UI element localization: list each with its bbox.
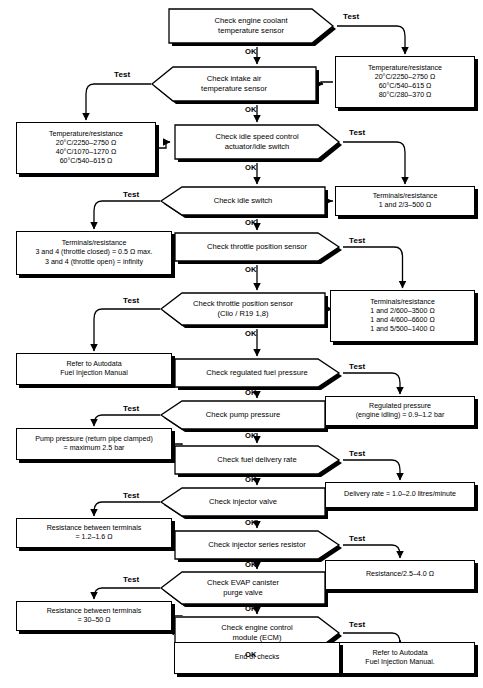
box-b-tps1: Terminals/resistance 1 and 2/600–3500 Ω …	[330, 290, 475, 342]
step-label: Check throttle position sensor	[174, 242, 340, 252]
box-b-tps2: Refer to Autodata Fuel Injection Manual	[16, 353, 172, 385]
connector	[94, 588, 160, 599]
box-b-evap: Resistance between terminals = 30–50 Ω	[16, 601, 172, 631]
edge-label-ok: OK	[245, 47, 256, 56]
edge-label-test-pump: Test	[123, 404, 139, 413]
step-injres[interactable]: Check injector series resistor	[174, 530, 340, 560]
edge-label-ok: OK	[245, 329, 256, 338]
edge-label-test-regfuel: Test	[349, 362, 365, 371]
step-injvalve[interactable]: Check injector valve	[160, 487, 326, 517]
edge-label-ok: OK	[245, 560, 256, 569]
connector	[94, 201, 160, 229]
box-b-pump: Pump pressure (return pipe clamped) = ma…	[16, 428, 172, 460]
box-label: Terminals/resistance 1 and 2/600–3500 Ω …	[331, 298, 474, 334]
connector	[337, 26, 405, 54]
connector	[94, 309, 160, 351]
step-label: Check regulated fuel pressure	[174, 368, 340, 378]
box-b-ecm: Refer to Autodata Fuel Injection Manual.	[325, 642, 475, 674]
edge-label-test-tps2: Test	[123, 296, 139, 305]
edge-label-ok: OK	[245, 105, 256, 114]
edge-label-test-injvalve: Test	[123, 491, 139, 500]
step-tps2[interactable]: Check throttle position sensor (Clio / R…	[160, 292, 326, 326]
connector	[86, 84, 151, 120]
box-label: End of checks	[175, 653, 339, 662]
step-label: Check pump pressure	[160, 410, 326, 420]
connector	[343, 142, 405, 184]
edge-label-test-intake: Test	[114, 70, 130, 79]
connector	[159, 142, 170, 148]
edge-label-test-coolant: Test	[343, 12, 359, 21]
step-label: Check throttle position sensor (Clio / R…	[160, 299, 326, 318]
edge-label-ok: OK	[245, 265, 256, 274]
edge-label-ok: OK	[245, 518, 256, 527]
box-b-idlespd: Terminals/resistance 1 and 2/3–500 Ω	[335, 186, 475, 216]
box-label: Resistance between terminals = 30–50 Ω	[17, 607, 171, 625]
step-label: Check injector series resistor	[174, 540, 340, 550]
step-label: Check idle switch	[160, 196, 326, 206]
step-label: Check injector valve	[160, 497, 326, 507]
box-b-delivery: Delivery rate = 1.0–2.0 litres/minute	[325, 482, 475, 508]
step-idlespeed[interactable]: Check idle speed control actuator/idle s…	[174, 124, 340, 160]
connector	[321, 82, 333, 84]
step-idleswitch[interactable]: Check idle switch	[160, 186, 326, 216]
step-label: Check idle speed control actuator/idle s…	[174, 132, 340, 151]
step-label: Check intake air temperature sensor	[151, 74, 317, 93]
edge-label-test-tps1: Test	[349, 236, 365, 245]
box-b-end: End of checks	[174, 642, 340, 674]
edge-label-test-injres: Test	[349, 534, 365, 543]
step-regfuel[interactable]: Check regulated fuel pressure	[174, 358, 340, 388]
box-label: Refer to Autodata Fuel Injection Manual	[17, 360, 171, 378]
box-label: Pump pressure (return pipe clamped) = ma…	[17, 435, 171, 453]
box-b-coolant: Temperature/resistance 20°C/2250–2750 Ω …	[335, 56, 475, 108]
box-label: Delivery rate = 1.0–2.0 litres/minute	[326, 490, 474, 499]
edge-label-test-idlespeed: Test	[349, 128, 365, 137]
step-tps1[interactable]: Check throttle position sensor	[174, 232, 340, 262]
box-label: Resistance between terminals = 1.2–1.6 Ω	[17, 524, 171, 542]
box-b-injres: Resistance/2.5–4.0 Ω	[325, 560, 475, 590]
step-delivery[interactable]: Check fuel delivery rate	[174, 445, 340, 475]
edge-label-ok: OK	[245, 604, 256, 613]
box-label: Temperature/resistance 20°C/2250–2750 Ω …	[336, 64, 474, 100]
box-b-regfuel: Regulated pressure (engine idling) = 0.9…	[325, 396, 475, 426]
box-label: Regulated pressure (engine idling) = 0.9…	[326, 402, 474, 420]
connector	[343, 460, 400, 480]
step-label: Check engine control module (ECM)	[174, 623, 340, 642]
edge-label-ok: OK	[245, 218, 256, 227]
edge-label-test-ecm: Test	[349, 620, 365, 629]
box-label: Terminals/resistance 1 and 2/3–500 Ω	[336, 192, 474, 210]
edge-label-test-evap: Test	[123, 575, 139, 584]
edge-label-ok: OK	[245, 475, 256, 484]
connector	[94, 415, 160, 426]
edge-label-test-delivery: Test	[349, 449, 365, 458]
flowchart-page: Check engine coolant temperature sensorC…	[0, 0, 483, 688]
box-b-intake: Temperature/resistance 20°C/2250–2750 Ω …	[16, 122, 156, 174]
edge-label-ok: OK	[245, 163, 256, 172]
step-intake[interactable]: Check intake air temperature sensor	[151, 66, 317, 102]
edge-label-ok: OK	[245, 431, 256, 440]
connector	[343, 247, 403, 288]
step-label: Check fuel delivery rate	[174, 455, 340, 465]
connector	[343, 373, 400, 394]
step-coolant[interactable]: Check engine coolant temperature sensor	[168, 8, 334, 44]
box-label: Temperature/resistance 20°C/2250–2750 Ω …	[17, 130, 155, 166]
box-b-injvalve: Resistance between terminals = 1.2–1.6 Ω	[16, 518, 172, 548]
step-evap[interactable]: Check EVAP canister purge valve	[160, 571, 326, 605]
connector	[343, 545, 400, 558]
box-label: Refer to Autodata Fuel Injection Manual.	[326, 649, 474, 667]
step-pump[interactable]: Check pump pressure	[160, 400, 326, 430]
box-label: Terminals/resistance 3 and 4 (throttle c…	[17, 239, 171, 266]
box-label: Resistance/2.5–4.0 Ω	[326, 570, 474, 579]
edge-label-ok: OK	[245, 388, 256, 397]
connector	[94, 502, 160, 516]
step-label: Check EVAP canister purge valve	[160, 578, 326, 597]
step-label: Check engine coolant temperature sensor	[168, 16, 334, 35]
edge-label-ok: OK	[245, 650, 256, 659]
box-b-idlesw: Terminals/resistance 3 and 4 (throttle c…	[16, 231, 172, 275]
edge-label-test-idleswitch: Test	[123, 190, 139, 199]
